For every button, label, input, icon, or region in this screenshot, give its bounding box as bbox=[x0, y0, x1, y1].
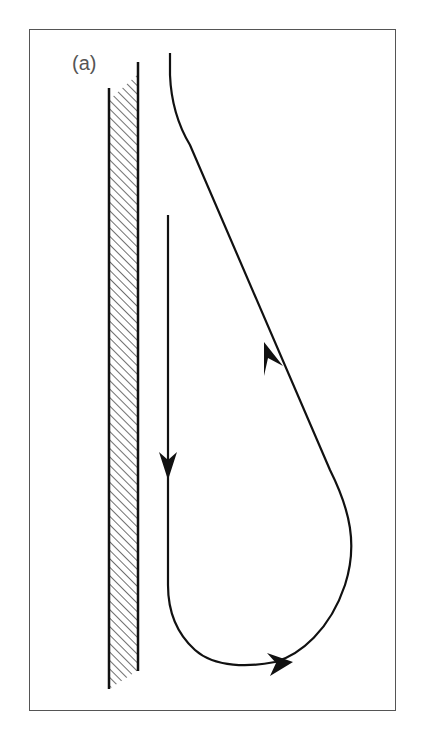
arrow-up-diagonal-icon bbox=[264, 342, 283, 376]
hatched-wall bbox=[109, 60, 138, 700]
teardrop-streamline bbox=[168, 53, 351, 665]
diagram-canvas bbox=[0, 0, 425, 746]
